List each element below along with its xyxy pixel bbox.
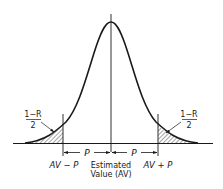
left-tail-leader (41, 122, 54, 132)
right-tail-leader (166, 122, 181, 133)
right-tail-fraction: 1−R 2 (180, 110, 198, 130)
normal-curve-diagram: P P AV − P AV + P Estimated Value (AV) 1… (0, 0, 223, 189)
svg-text:1−R: 1−R (180, 110, 198, 119)
bell-curve (25, 22, 198, 143)
left-half-width-label: P (84, 148, 90, 158)
center-label-line2: Value (AV) (90, 170, 131, 179)
svg-text:1−R: 1−R (24, 110, 42, 119)
svg-text:2: 2 (30, 121, 35, 130)
left-bound-label: AV − P (49, 160, 80, 170)
center-label-line1: Estimated (91, 161, 131, 170)
right-bound-label: AV + P (143, 160, 174, 170)
right-half-width-label: P (131, 148, 137, 158)
svg-text:2: 2 (186, 121, 191, 130)
left-tail-fraction: 1−R 2 (24, 110, 42, 130)
